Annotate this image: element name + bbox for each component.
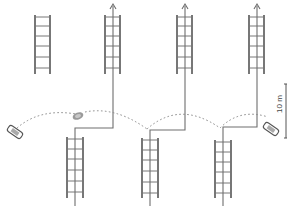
dotted-arc-3: [147, 114, 220, 129]
route-path-1: [75, 4, 116, 206]
vehicle-right-icon: [262, 122, 279, 137]
route-path-3: [223, 4, 260, 206]
route-path-2: [150, 4, 188, 206]
transect-diagram: 10 m: [0, 0, 295, 206]
dotted-arc-1: [17, 113, 76, 128]
ladder-top-1: [35, 15, 50, 74]
vehicle-middle-icon: [72, 111, 85, 121]
scale-bar-label: 10 m: [275, 95, 284, 113]
dotted-arc-4: [220, 114, 268, 128]
vehicle-left-icon: [6, 125, 23, 140]
dotted-arc-2: [85, 111, 147, 129]
